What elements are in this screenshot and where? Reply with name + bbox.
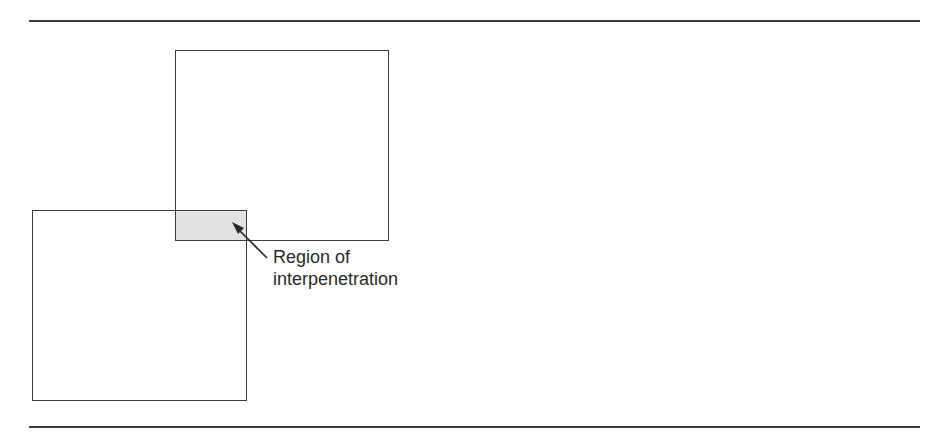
region-label-line-1: Region of: [273, 246, 398, 268]
region-label-line-2: interpenetration: [273, 268, 398, 290]
bottom-rule: [29, 426, 920, 428]
pointer-arrow-icon: [0, 0, 950, 442]
region-label: Region of interpenetration: [273, 246, 398, 290]
